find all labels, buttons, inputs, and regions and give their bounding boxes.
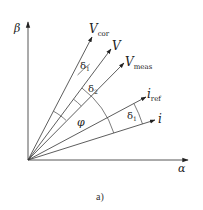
phasor-diagram: Vcor V Vmeas iref i δ1 δ2 φ δ1 β α a) — [0, 0, 203, 210]
label-v-cor: Vcor — [89, 22, 110, 38]
vector-v-cor — [28, 37, 92, 160]
label-i-ref: iref — [147, 87, 162, 103]
label-alpha-axis: α — [178, 162, 186, 175]
arc-inner-1 — [53, 111, 60, 116]
label-delta1-top: δ1 — [80, 60, 90, 72]
label-beta-axis: β — [13, 22, 20, 35]
arc-delta2 — [74, 99, 82, 106]
label-delta2: δ2 — [88, 83, 98, 95]
label-phi: φ — [77, 116, 85, 129]
figure-caption: a) — [96, 191, 104, 203]
arc-inner-2 — [61, 116, 66, 121]
label-delta1-bottom: δ1 — [127, 110, 137, 122]
label-v-meas: Vmeas — [125, 55, 153, 71]
label-v: V — [112, 39, 122, 53]
arc-phi — [82, 88, 114, 133]
label-i: i — [158, 112, 162, 126]
vector-v-meas — [28, 63, 124, 160]
